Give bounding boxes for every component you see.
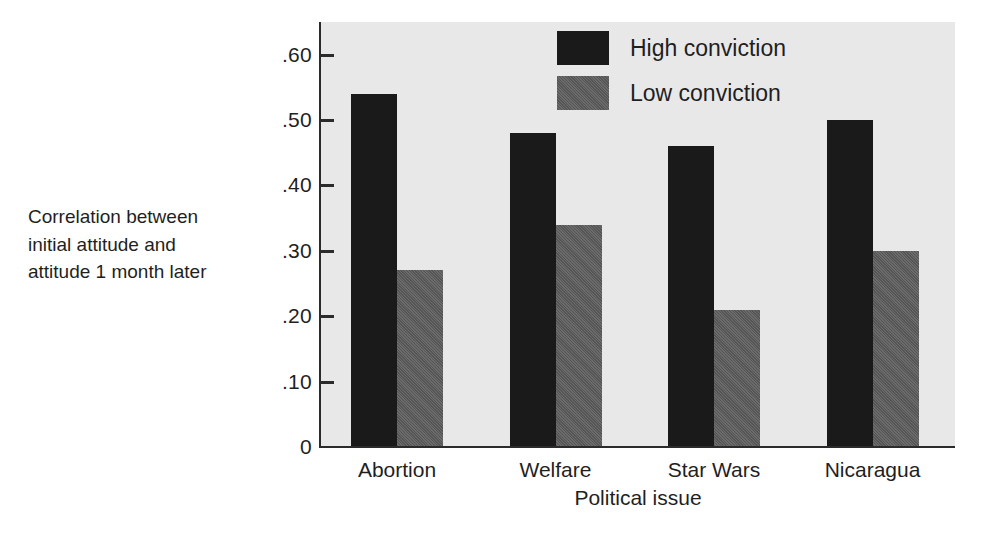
y-axis-title: Correlation between initial attitude and… xyxy=(28,203,256,286)
y-tick-label: .10 xyxy=(254,371,312,392)
bar-welfare-low xyxy=(556,225,602,447)
x-axis-label-nicaragua: Nicaragua xyxy=(793,458,953,481)
bar-welfare-high xyxy=(510,133,556,447)
bar-nicaragua-low xyxy=(873,251,919,447)
y-tick-mark xyxy=(321,119,334,122)
legend-swatch-low xyxy=(557,76,609,110)
legend-label-low: Low conviction xyxy=(630,80,781,107)
legend-item-high: High conviction xyxy=(557,31,786,65)
y-tick-label: .50 xyxy=(254,109,312,130)
bar-chart-figure: 0.10.20.30.40.50.60 AbortionWelfareStar … xyxy=(0,0,988,533)
y-axis-title-line-3: attitude 1 month later xyxy=(28,258,256,286)
y-tick-mark xyxy=(321,184,334,187)
y-axis-title-line-2: initial attitude and xyxy=(28,231,256,259)
x-axis-label-welfare: Welfare xyxy=(476,458,636,481)
legend-item-low: Low conviction xyxy=(557,76,786,110)
y-tick-label: .30 xyxy=(254,240,312,261)
y-tick-mark xyxy=(321,315,334,318)
x-axis-line xyxy=(319,446,955,448)
y-tick-label: 0 xyxy=(254,436,312,457)
y-tick-mark xyxy=(321,54,334,57)
bar-abortion-low xyxy=(397,270,443,447)
legend-label-high: High conviction xyxy=(630,35,786,62)
legend-swatch-high xyxy=(557,31,609,65)
y-axis-tick-labels: 0.10.20.30.40.50.60 xyxy=(250,0,312,533)
y-tick-mark xyxy=(321,250,334,253)
x-axis-label-star-wars: Star Wars xyxy=(634,458,794,481)
y-tick-label: .40 xyxy=(254,174,312,195)
bar-star-wars-low xyxy=(714,310,760,447)
bar-star-wars-high xyxy=(668,146,714,447)
x-axis-title: Political issue xyxy=(321,486,955,510)
bar-nicaragua-high xyxy=(827,120,873,447)
x-axis-label-abortion: Abortion xyxy=(317,458,477,481)
y-tick-label: .60 xyxy=(254,44,312,65)
y-tick-mark xyxy=(321,381,334,384)
chart-legend: High convictionLow conviction xyxy=(557,31,786,121)
y-axis-title-line-1: Correlation between xyxy=(28,203,256,231)
bar-abortion-high xyxy=(351,94,397,447)
y-tick-label: .20 xyxy=(254,305,312,326)
